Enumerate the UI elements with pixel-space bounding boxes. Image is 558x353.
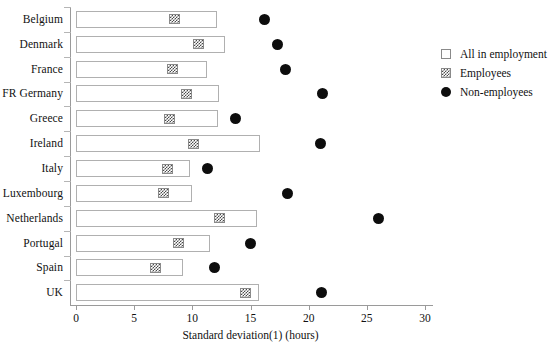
bar-all-in-employment <box>76 135 260 152</box>
marker-non-employees <box>280 64 291 75</box>
marker-non-employees <box>317 88 328 99</box>
category-label-portugal: Portugal <box>0 237 63 249</box>
bar-all-in-employment <box>76 284 259 301</box>
category-label-italy: Italy <box>0 162 63 174</box>
x-axis-tick <box>251 305 252 310</box>
x-axis-tick-label: 20 <box>294 312 324 324</box>
marker-employees <box>164 114 175 124</box>
legend-item-non-employees: Non-employees <box>441 86 533 98</box>
marker-non-employees <box>316 287 327 298</box>
marker-employees <box>169 14 180 24</box>
y-axis-tick <box>64 280 71 281</box>
legend-swatch-non-employees-icon <box>441 87 451 97</box>
bar-all-in-employment <box>76 85 219 102</box>
bar-all-in-employment <box>76 235 210 252</box>
legend-label: All in employment <box>460 48 547 60</box>
marker-employees <box>193 39 204 49</box>
x-axis-tick <box>309 305 310 310</box>
x-axis-tick-label: 30 <box>410 312 440 324</box>
category-label-netherlands: Netherlands <box>0 212 63 224</box>
marker-employees <box>173 238 184 248</box>
marker-employees <box>162 164 173 174</box>
marker-employees <box>158 188 169 198</box>
legend-item-employees: Employees <box>441 67 511 79</box>
x-axis-title: Standard deviation(1) (hours) <box>0 329 501 341</box>
y-axis-tick <box>64 106 71 107</box>
y-axis-tick <box>64 57 71 58</box>
category-label-luxembourg: Luxembourg <box>0 187 63 199</box>
y-axis-tick <box>64 206 71 207</box>
x-axis-tick-label: 15 <box>236 312 266 324</box>
standard-deviation-hours-chart: BelgiumDenmarkFranceFR GermanyGreeceIrel… <box>0 0 558 353</box>
y-axis-tick <box>64 181 71 182</box>
category-label-france: France <box>0 63 63 75</box>
bar-all-in-employment <box>76 210 257 227</box>
y-axis-tick <box>64 131 71 132</box>
y-axis-tick <box>64 32 71 33</box>
legend-label: Non-employees <box>460 86 533 98</box>
category-label-fr-germany: FR Germany <box>0 87 63 99</box>
x-axis-tick <box>367 305 368 310</box>
x-axis-tick <box>134 305 135 310</box>
marker-non-employees <box>259 14 270 25</box>
bar-all-in-employment <box>76 61 207 78</box>
marker-non-employees <box>373 213 384 224</box>
y-axis-tick <box>64 231 71 232</box>
category-label-uk: UK <box>0 286 63 298</box>
marker-non-employees <box>209 262 220 273</box>
legend-item-all-in-employment: All in employment <box>441 48 547 60</box>
marker-non-employees <box>230 113 241 124</box>
marker-employees <box>188 139 199 149</box>
plot-area: BelgiumDenmarkFranceFR GermanyGreeceIrel… <box>0 0 558 353</box>
bar-all-in-employment <box>76 110 218 127</box>
x-axis-tick <box>425 305 426 310</box>
category-label-greece: Greece <box>0 112 63 124</box>
legend-label: Employees <box>460 67 511 79</box>
bar-all-in-employment <box>76 259 183 276</box>
x-axis-tick-label: 5 <box>119 312 149 324</box>
legend-swatch-employees-icon <box>441 68 451 78</box>
legend-swatch-all-in-employment-icon <box>441 49 451 59</box>
y-axis-tick <box>64 156 71 157</box>
marker-non-employees <box>202 163 213 174</box>
marker-employees <box>150 263 161 273</box>
x-axis-tick-label: 0 <box>61 312 91 324</box>
x-axis-tick <box>192 305 193 310</box>
y-axis-tick <box>64 256 71 257</box>
category-label-belgium: Belgium <box>0 13 63 25</box>
x-axis-tick-label: 10 <box>177 312 207 324</box>
bar-all-in-employment <box>76 185 192 202</box>
marker-employees <box>240 288 251 298</box>
x-axis-tick-label: 25 <box>352 312 382 324</box>
marker-non-employees <box>245 238 256 249</box>
marker-employees <box>181 89 192 99</box>
marker-non-employees <box>315 138 326 149</box>
category-label-denmark: Denmark <box>0 38 63 50</box>
marker-employees <box>167 64 178 74</box>
y-axis-tick <box>64 7 71 8</box>
category-label-spain: Spain <box>0 261 63 273</box>
bar-all-in-employment <box>76 11 217 28</box>
marker-non-employees <box>272 39 283 50</box>
marker-non-employees <box>282 188 293 199</box>
y-axis-tick <box>64 82 71 83</box>
marker-employees <box>214 213 225 223</box>
x-axis-tick <box>76 305 77 310</box>
category-label-ireland: Ireland <box>0 137 63 149</box>
